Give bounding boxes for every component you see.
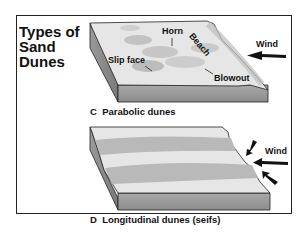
label-slip-face: Slip face bbox=[108, 55, 145, 65]
label-blowout: Blowout bbox=[214, 73, 250, 83]
panel-letter-d: D bbox=[90, 214, 97, 225]
wind-arrow-center-icon bbox=[253, 158, 288, 167]
dune-diagrams bbox=[0, 0, 307, 239]
label-horn: Horn bbox=[162, 26, 183, 36]
label-wind-c: Wind bbox=[256, 39, 278, 49]
wind-arrow-icon bbox=[247, 51, 286, 60]
panel-letter-c: C bbox=[90, 106, 97, 117]
wind-arrow-upper-icon bbox=[246, 140, 257, 156]
caption-parabolic: C Parabolic dunes bbox=[90, 106, 176, 117]
label-wind-d: Wind bbox=[265, 146, 287, 156]
wind-arrow-lower-icon bbox=[262, 171, 278, 185]
caption-longitudinal-text: Longitudinal dunes (seifs) bbox=[102, 214, 220, 225]
caption-longitudinal: D Longitudinal dunes (seifs) bbox=[90, 214, 220, 225]
longitudinal-dunes-block bbox=[90, 127, 270, 210]
caption-parabolic-text: Parabolic dunes bbox=[102, 106, 175, 117]
